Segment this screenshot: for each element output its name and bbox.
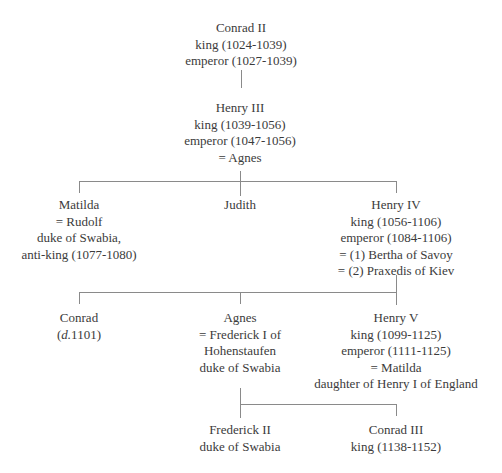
person-name: Henry III [140, 100, 340, 117]
person-detail: emperor (1111-1125) [296, 343, 496, 360]
person-detail: king (1099-1125) [296, 327, 496, 344]
person-detail: duke of Swabia, [0, 230, 179, 247]
person-spouse: = Agnes [140, 150, 340, 167]
person-conrad-ii: Conrad II king (1024-1039) emperor (1027… [141, 20, 341, 70]
connector-conrad-ii-to-henry-iii [241, 70, 242, 88]
person-detail: king (1024-1039) [141, 37, 341, 54]
person-detail: emperor (1084-1106) [296, 230, 496, 247]
person-detail: anti-king (1077-1080) [0, 247, 179, 264]
person-name: Henry V [296, 310, 496, 327]
person-detail: daughter of Henry I of England [296, 376, 496, 393]
connector-to-matilda [79, 181, 80, 193]
person-henry-v: Henry V king (1099-1125) emperor (1111-1… [296, 310, 496, 393]
connector-to-conrad-iii [396, 404, 397, 416]
person-name: Henry IV [296, 197, 496, 214]
connector-henry-iv-stem [396, 275, 397, 305]
connector-to-conrad [79, 292, 80, 304]
connector-generation-4-bar [79, 292, 397, 293]
person-name: Conrad III [296, 422, 496, 439]
died-year: 1101 [71, 327, 97, 342]
person-detail: emperor (1027-1039) [141, 53, 341, 70]
connector-to-henry-iv [396, 181, 397, 193]
person-detail: king (1039-1056) [140, 117, 340, 134]
person-spouse: = Matilda [296, 360, 496, 377]
person-henry-iii: Henry III king (1039-1056) emperor (1047… [140, 100, 340, 166]
connector-to-agnes [240, 292, 241, 304]
died-prefix: d. [61, 327, 71, 342]
person-detail: king (1056-1106) [296, 214, 496, 231]
connector-agnes-stem [240, 388, 241, 418]
person-spouse: = (1) Bertha of Savoy [296, 247, 496, 264]
person-spouse: = (2) Praxedis of Kiev [296, 263, 496, 280]
connector-generation-3-bar [79, 181, 397, 182]
person-spouse: = Rudolf [0, 214, 179, 231]
connector-to-judith [240, 181, 241, 196]
person-name: Conrad II [141, 20, 341, 37]
person-conrad-iii: Conrad III king (1138-1152) [296, 422, 496, 455]
person-henry-iv: Henry IV king (1056-1106) emperor (1084-… [296, 197, 496, 280]
connector-generation-5-bar [240, 404, 397, 405]
person-detail: king (1138-1152) [296, 439, 496, 456]
person-detail: emperor (1047-1056) [140, 133, 340, 150]
